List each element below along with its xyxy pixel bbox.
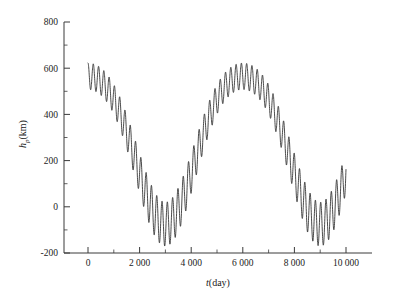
x-tick-label: 6 000 <box>232 258 254 268</box>
x-tick-label: 0 <box>86 258 91 268</box>
y-tick-label: 600 <box>44 64 59 74</box>
figure-container: 02 0004 0006 0008 00010 000 800600400200… <box>0 0 393 299</box>
y-tick-label: 0 <box>53 202 58 212</box>
y-tick-label: 200 <box>44 156 59 166</box>
x-tick-label: 8 000 <box>284 258 306 268</box>
figure-background <box>0 0 393 299</box>
x-tick-label: 2 000 <box>129 258 151 268</box>
x-tick-label: 4 000 <box>181 258 203 268</box>
y-tick-label: 800 <box>44 17 59 27</box>
x-axis-title: t(day) <box>206 277 230 289</box>
y-tick-label: 400 <box>44 110 59 120</box>
x-tick-label: 10 000 <box>333 258 359 268</box>
y-tick-label: -200 <box>41 248 59 258</box>
plot-svg: 02 0004 0006 0008 00010 000 800600400200… <box>0 0 393 299</box>
